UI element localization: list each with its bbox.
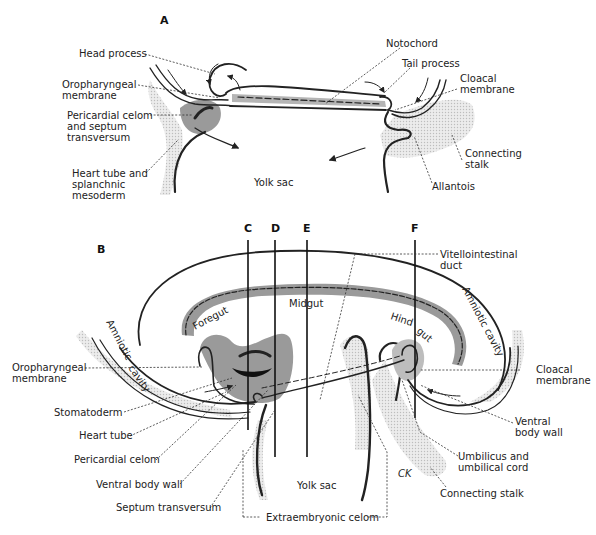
label-ventral-1: Ventral [515, 416, 551, 427]
label-heart-tube-b: Heart tube [79, 430, 133, 441]
embryo-dorsal-outline [226, 86, 385, 96]
label-septum-transversum: Septum transversum [116, 502, 221, 513]
label-allantois: Allantois [432, 181, 475, 192]
label-hindgut-1: Hind [389, 310, 414, 328]
label-oropharyngeal-2: membrane [62, 90, 117, 101]
section-label-f: F [411, 222, 419, 235]
label-amniotic-left-1: Amniotic [104, 318, 134, 362]
embryo-diagram: A [0, 0, 596, 535]
artist-signature: CK [398, 468, 413, 479]
ventral-arrow-b [428, 390, 460, 396]
label-cloacal-a-1: Cloacal [460, 73, 496, 84]
label-connecting-stalk-a-2: stalk [465, 159, 489, 170]
label-head-process: Head process [79, 48, 147, 59]
panel-b: B [12, 222, 591, 523]
label-amniotic-right: Amniotic cavity [460, 285, 506, 359]
cloacal-arrow [416, 78, 428, 102]
label-oropharyngeal-b-2: membrane [12, 373, 67, 384]
label-midgut: Midgut [289, 298, 323, 309]
label-heart-tube-1: Heart tube and [72, 168, 148, 179]
label-connecting-stalk-a-1: Connecting [465, 148, 522, 159]
label-yolk-sac-a: Yolk sac [253, 177, 293, 188]
section-label-d: D [271, 222, 280, 235]
label-vitellointestinal-2: duct [440, 260, 462, 271]
label-hindgut-2: gut [415, 325, 435, 344]
leader-notochord [325, 48, 400, 104]
label-yolk-sac-b: Yolk sac [296, 480, 336, 491]
label-ventral-body-wall-left: Ventral body wall [96, 479, 182, 490]
embryo-ventral-outline [230, 106, 386, 110]
label-ventral-2: body wall [515, 427, 563, 438]
label-cloacal-a-2: membrane [460, 84, 515, 95]
panel-a: A [62, 14, 522, 201]
label-cloacal-b-1: Cloacal [536, 364, 572, 375]
label-pericardial-2: and septum [67, 121, 127, 132]
label-oropharyngeal-b-1: Oropharyngeal [12, 362, 86, 373]
notochord-band [232, 94, 386, 107]
label-extraembryonic-celom: Extraembryonic celom [266, 512, 379, 523]
section-label-c: C [244, 222, 252, 235]
label-connecting-stalk-b: Connecting stalk [440, 488, 524, 499]
leader-head-process [145, 54, 215, 74]
label-vitellointestinal-1: Vitellointestinal [440, 249, 518, 260]
label-cloacal-b-2: membrane [536, 375, 591, 386]
label-oropharyngeal-1: Oropharyngeal [62, 79, 136, 90]
panel-a-letter: A [160, 14, 169, 27]
label-tail-process: Tail process [401, 58, 460, 69]
tail-arrow [365, 82, 384, 92]
label-umbilicus-2: umbilical cord [458, 462, 528, 473]
pharynx-region [200, 334, 293, 403]
label-notochord: Notochord [386, 38, 438, 49]
leader-tail-process [385, 68, 410, 92]
label-stomatoderm: Stomatoderm [54, 407, 122, 418]
label-umbilicus-1: Umbilicus and [458, 451, 529, 462]
label-pericardial-celom: Pericardial celom [74, 454, 160, 465]
label-heart-tube-2: splanchnic [72, 179, 125, 190]
label-heart-tube-3: mesoderm [72, 190, 125, 201]
label-pericardial-3: transversum [67, 132, 130, 143]
yolk-arrow-right [330, 148, 365, 160]
label-pericardial-1: Pericardial celom [67, 110, 153, 121]
leader-oropharyngeal-b [85, 367, 202, 368]
panel-b-letter: B [97, 243, 105, 256]
section-label-e: E [303, 222, 311, 235]
